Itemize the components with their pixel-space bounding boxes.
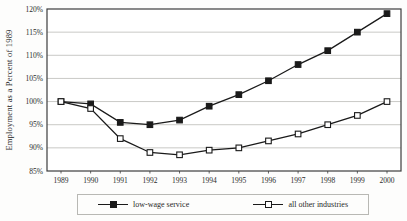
x-tick-label: 1995 bbox=[231, 176, 246, 185]
plot-background bbox=[47, 9, 401, 171]
open-square-line-marker-icon bbox=[253, 200, 283, 209]
data-point-all-other-industries bbox=[117, 136, 123, 142]
filled-square-line-marker-icon bbox=[98, 200, 128, 209]
data-point-all-other-industries bbox=[325, 122, 331, 128]
data-point-all-other-industries bbox=[355, 113, 361, 119]
x-tick-label: 1992 bbox=[142, 176, 157, 185]
y-tick-label: 115% bbox=[26, 28, 43, 37]
chart-legend: low-wage service all other industries bbox=[77, 194, 369, 215]
x-tick-label: 1996 bbox=[261, 176, 276, 185]
y-tick-label: 120% bbox=[26, 5, 44, 14]
data-point-low-wage-service bbox=[117, 120, 123, 126]
data-point-all-other-industries bbox=[88, 106, 94, 112]
x-tick-label: 1991 bbox=[113, 176, 128, 185]
data-point-low-wage-service bbox=[384, 11, 390, 17]
data-point-all-other-industries bbox=[58, 99, 64, 105]
chart-plot-area: 85%90%95%100%105%110%115%120%19891990199… bbox=[0, 0, 407, 221]
legend-label: all other industries bbox=[288, 200, 348, 209]
y-tick-label: 90% bbox=[29, 143, 43, 152]
data-point-all-other-industries bbox=[147, 150, 153, 156]
data-point-low-wage-service bbox=[355, 29, 361, 35]
line-chart-figure: Employment as a Percent of 1989 85%90%95… bbox=[0, 0, 407, 221]
x-tick-label: 2000 bbox=[380, 176, 395, 185]
legend-entry-all-other-industries: all other industries bbox=[253, 200, 348, 209]
y-tick-label: 85% bbox=[29, 167, 43, 176]
data-point-low-wage-service bbox=[177, 117, 183, 123]
data-point-low-wage-service bbox=[266, 78, 272, 84]
data-point-all-other-industries bbox=[384, 99, 390, 105]
y-tick-label: 110% bbox=[26, 51, 43, 60]
data-point-low-wage-service bbox=[295, 62, 301, 68]
data-point-all-other-industries bbox=[177, 152, 183, 158]
x-tick-label: 1989 bbox=[54, 176, 69, 185]
x-tick-label: 1993 bbox=[172, 176, 187, 185]
x-tick-label: 1998 bbox=[320, 176, 335, 185]
data-point-low-wage-service bbox=[206, 103, 212, 109]
legend-label: low-wage service bbox=[133, 200, 189, 209]
data-point-all-other-industries bbox=[236, 145, 242, 151]
y-tick-label: 100% bbox=[26, 97, 44, 106]
legend-entry-low-wage-service: low-wage service bbox=[98, 200, 189, 209]
data-point-all-other-industries bbox=[206, 147, 212, 153]
x-tick-label: 1990 bbox=[83, 176, 98, 185]
y-tick-label: 105% bbox=[26, 74, 44, 83]
x-tick-label: 1997 bbox=[291, 176, 306, 185]
data-point-low-wage-service bbox=[147, 122, 153, 128]
data-point-all-other-industries bbox=[295, 131, 301, 137]
y-tick-label: 95% bbox=[29, 120, 43, 129]
x-tick-label: 1999 bbox=[350, 176, 365, 185]
data-point-low-wage-service bbox=[325, 48, 331, 54]
data-point-all-other-industries bbox=[266, 138, 272, 144]
data-point-low-wage-service bbox=[236, 92, 242, 98]
x-tick-label: 1994 bbox=[202, 176, 217, 185]
